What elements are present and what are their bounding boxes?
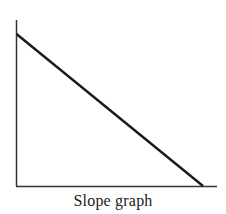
slope-graph: [0, 0, 226, 214]
figure-caption: Slope graph: [0, 192, 226, 210]
slope-line: [17, 34, 204, 186]
